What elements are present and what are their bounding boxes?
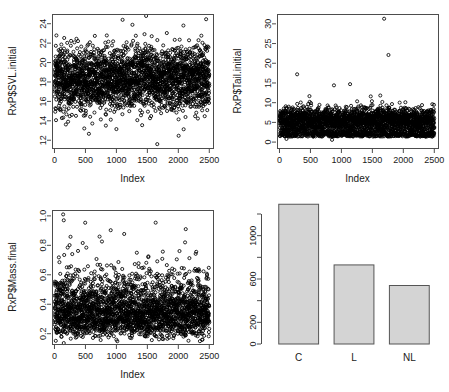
- mass-y-axis: 0.20.40.60.81.0: [38, 210, 51, 340]
- barchart-category-label: NL: [403, 352, 416, 363]
- mass-x-ticklabel: 500: [78, 351, 93, 361]
- svl-y-ticklabel: 14: [38, 116, 48, 126]
- tail-x-ticklabel: 1000: [331, 155, 351, 165]
- mass-y-ticklabel: 1.0: [38, 210, 48, 223]
- tail-y-ticklabel: 0: [263, 140, 273, 145]
- mass-canvas: 05001000150020002500Index0.20.40.60.81.0…: [0, 196, 224, 392]
- panel-category-barchart: 02006001000CLNL: [225, 196, 449, 392]
- tail-y-ticklabel: 5: [263, 120, 273, 125]
- mass-x-ticklabel: 2500: [199, 351, 219, 361]
- svl-y-ticklabel: 18: [38, 77, 48, 87]
- mass-y-ticklabel: 0.2: [38, 327, 48, 340]
- bar-L: [334, 265, 374, 344]
- svl-y-ticklabel: 20: [38, 58, 48, 68]
- barchart-category-label: L: [351, 352, 357, 363]
- barchart-y-ticklabel: 1000: [248, 226, 258, 246]
- r-multipanel-figure: 05001000150020002500Index12141618202224R…: [0, 0, 449, 392]
- barchart-canvas: 02006001000CLNL: [225, 196, 449, 392]
- tail-y-axis: 051015202530: [263, 19, 276, 145]
- mass-x-axis: 05001000150020002500: [52, 345, 219, 361]
- svl-x-ticklabel: 1000: [106, 155, 126, 165]
- svl-points: [53, 14, 211, 145]
- svl-x-ticklabel: 2500: [199, 155, 219, 165]
- mass-y-axis-title: RxP$Mass.final: [7, 242, 18, 311]
- svl-x-ticklabel: 0: [52, 155, 57, 165]
- tail-x-ticklabel: 1500: [362, 155, 382, 165]
- mass-x-ticklabel: 2000: [168, 351, 188, 361]
- barchart-bars: CLNL: [279, 204, 430, 363]
- mass-y-ticklabel: 0.6: [38, 269, 48, 282]
- tail-y-axis-title: RxP$Tail.initial: [232, 48, 243, 113]
- panel-svl-initial-scatter: 05001000150020002500Index12141618202224R…: [0, 0, 224, 196]
- svl-y-axis-title: RxP$SVL.initial: [7, 47, 18, 116]
- panel-tail-initial-scatter: 05001000150020002500Index051015202530RxP…: [225, 0, 449, 196]
- barchart-y-ticklabel: 0: [248, 341, 258, 346]
- svl-x-ticklabel: 1500: [137, 155, 157, 165]
- svl-x-axis: 05001000150020002500: [52, 149, 219, 165]
- svl-y-ticklabel: 16: [38, 96, 48, 106]
- mass-y-ticklabel: 0.4: [38, 298, 48, 311]
- tail-points: [278, 17, 436, 141]
- tail-x-ticklabel: 500: [303, 155, 318, 165]
- mass-points: [53, 213, 211, 345]
- svl-y-ticklabel: 24: [38, 19, 48, 29]
- tail-y-ticklabel: 25: [263, 39, 273, 49]
- tail-x-axis: 05001000150020002500: [277, 149, 444, 165]
- svl-x-ticklabel: 500: [78, 155, 93, 165]
- mass-x-ticklabel: 1500: [137, 351, 157, 361]
- bar-NL: [389, 286, 429, 345]
- tail-canvas: 05001000150020002500Index051015202530RxP…: [225, 0, 449, 196]
- tail-y-ticklabel: 10: [263, 98, 273, 108]
- svl-y-ticklabel: 22: [38, 38, 48, 48]
- bar-C: [279, 204, 319, 344]
- tail-x-ticklabel: 2500: [424, 155, 444, 165]
- tail-y-ticklabel: 20: [263, 58, 273, 68]
- svl-x-ticklabel: 2000: [168, 155, 188, 165]
- tail-x-axis-title: Index: [345, 173, 369, 184]
- mass-x-ticklabel: 1000: [106, 351, 126, 361]
- tail-x-ticklabel: 0: [277, 155, 282, 165]
- svl-canvas: 05001000150020002500Index12141618202224R…: [0, 0, 224, 196]
- tail-x-ticklabel: 2000: [393, 155, 413, 165]
- svl-y-ticklabel: 12: [38, 135, 48, 145]
- barchart-y-ticklabel: 200: [248, 315, 258, 330]
- svl-x-axis-title: Index: [120, 173, 144, 184]
- panel-mass-final-scatter: 05001000150020002500Index0.20.40.60.81.0…: [0, 196, 224, 392]
- svl-y-axis: 12141618202224: [38, 19, 51, 146]
- mass-x-ticklabel: 0: [52, 351, 57, 361]
- mass-y-ticklabel: 0.8: [38, 239, 48, 252]
- barchart-category-label: C: [295, 352, 302, 363]
- barchart-y-ticklabel: 600: [248, 271, 258, 286]
- mass-x-axis-title: Index: [120, 369, 144, 380]
- tail-y-ticklabel: 30: [263, 19, 273, 29]
- barchart-y-axis: 02006001000: [248, 214, 261, 347]
- tail-y-ticklabel: 15: [263, 78, 273, 88]
